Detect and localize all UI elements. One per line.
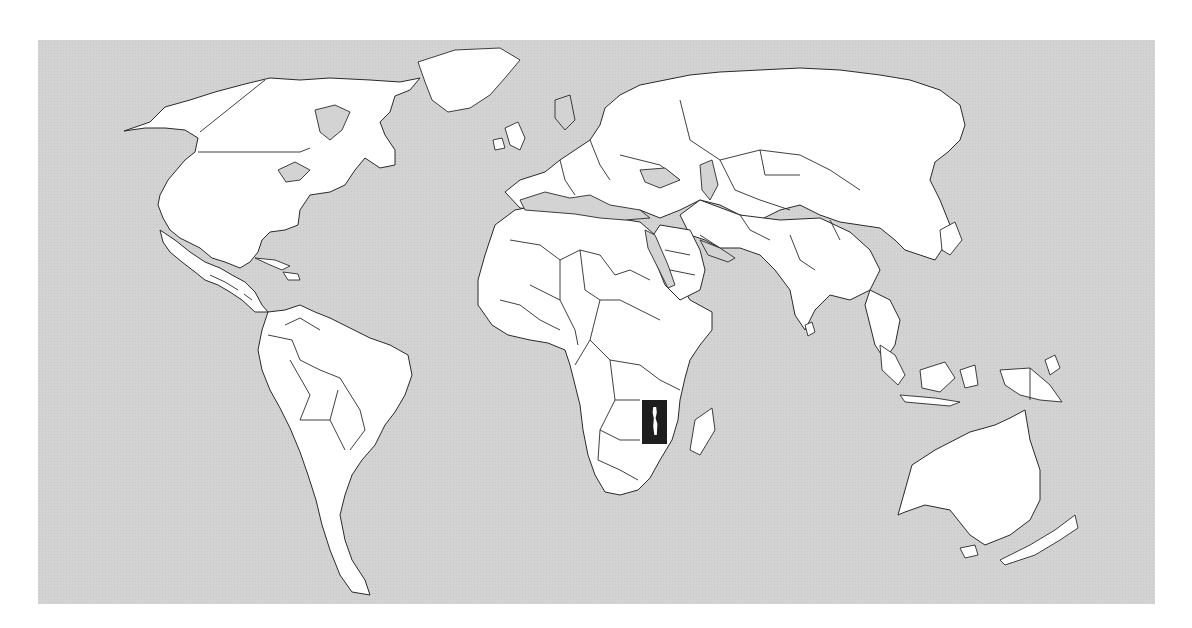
continent-asia-borders <box>650 200 1062 406</box>
world-map-shapes <box>0 0 1192 628</box>
continent-oceania <box>898 410 1078 565</box>
continent-south-america <box>258 305 412 595</box>
continent-north-america <box>124 48 520 312</box>
